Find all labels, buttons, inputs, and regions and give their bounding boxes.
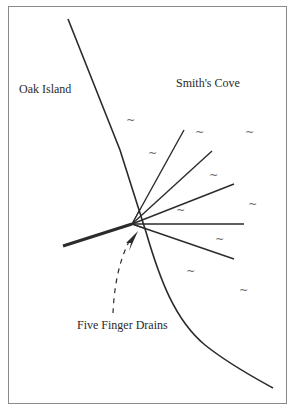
smiths-cove-label: Smith's Cove (176, 76, 240, 91)
five-finger-drains-label: Five Finger Drains (77, 318, 168, 333)
wave-icon: ~ (148, 148, 157, 159)
wave-icon: ~ (126, 115, 135, 126)
pointer-dashed-line (113, 236, 132, 313)
arrowhead-icon (126, 231, 138, 251)
wave-icon: ~ (215, 234, 224, 245)
oak-island-label: Oak Island (19, 82, 71, 97)
drain-finger-2 (132, 151, 212, 224)
wave-icon: ~ (239, 285, 248, 296)
wave-icon: ~ (245, 127, 254, 138)
wave-icon: ~ (195, 127, 204, 138)
wave-icon: ~ (248, 199, 257, 210)
wave-icon: ~ (176, 205, 185, 216)
main-drain (63, 224, 132, 246)
wave-icon: ~ (186, 266, 195, 277)
wave-icon: ~ (209, 170, 218, 181)
